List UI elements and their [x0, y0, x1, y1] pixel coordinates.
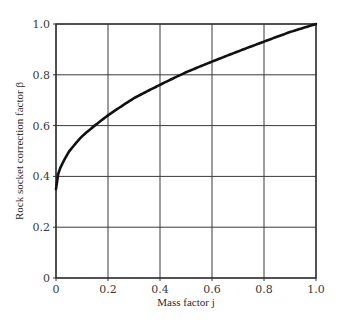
x-tick-label: 0	[53, 283, 60, 296]
y-tick-label: 0.8	[33, 69, 51, 82]
y-tick-label: 0	[43, 272, 50, 285]
y-tick-label: 0.6	[33, 120, 51, 133]
chart: 00.20.40.60.81.0 00.20.40.60.81.0 Mass f…	[0, 0, 339, 323]
x-tick-label: 0.6	[203, 283, 221, 296]
x-axis-label: Mass factor j	[157, 296, 214, 308]
x-axis-ticks: 00.20.40.60.81.0	[53, 283, 325, 296]
x-tick-label: 0.2	[99, 283, 117, 296]
y-axis-ticks: 00.20.40.60.81.0	[33, 18, 51, 285]
y-tick-label: 1.0	[33, 18, 51, 31]
grid-lines	[53, 24, 316, 281]
y-tick-label: 0.4	[33, 170, 51, 183]
plot-frame	[56, 24, 316, 278]
x-tick-label: 0.8	[255, 283, 273, 296]
x-tick-label: 0.4	[151, 283, 169, 296]
x-tick-label: 1.0	[307, 283, 325, 296]
beta-curve	[56, 24, 316, 189]
y-axis-label: Rock socket correction factor β	[13, 82, 25, 221]
y-tick-label: 0.2	[33, 221, 51, 234]
